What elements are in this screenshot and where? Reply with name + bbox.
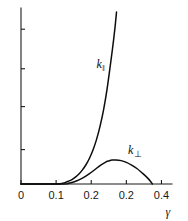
plot-canvas <box>0 0 188 221</box>
x-axis-title: γ <box>165 206 170 218</box>
figure-container: 00.10.20.20.4 k‖k⊥ γ <box>0 0 188 221</box>
x-tick-label-3: 0.2 <box>119 190 134 201</box>
curve-k-parallel <box>21 12 117 184</box>
x-tick-label-2: 0.2 <box>84 190 99 201</box>
k-parallel-label: k‖ <box>97 58 105 72</box>
x-tick-label-0: 0 <box>18 190 24 201</box>
k-perp-label: k⊥ <box>128 144 142 158</box>
k-parallel-label-subscript: ‖ <box>102 63 105 73</box>
x-tick-label-1: 0.1 <box>48 190 63 201</box>
x-tick-label-4: 0.4 <box>154 190 169 201</box>
y-axis-ticks <box>21 29 25 149</box>
axes-group <box>21 8 172 184</box>
k-perp-label-subscript: ⊥ <box>133 149 142 159</box>
